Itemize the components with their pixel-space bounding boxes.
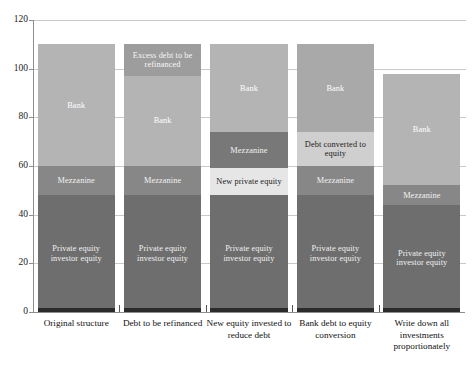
x-axis-tick-mark: [206, 305, 207, 312]
bar-segment-label: Mezzanine: [228, 146, 269, 155]
bar-segment-label: Private equity investor equity: [297, 244, 374, 263]
bar-5[interactable]: Private equity investor equityMezzanineB…: [383, 74, 460, 312]
x-axis-tick-mark: [379, 305, 380, 312]
bar-segment[interactable]: Debt converted to equity: [297, 132, 374, 166]
bar-base-band: [124, 308, 201, 312]
y-axis-tick-mark: [29, 263, 33, 264]
bar-segment[interactable]: Excess debt to be refinanced: [124, 44, 201, 76]
y-axis-tick-label: 80: [0, 111, 28, 121]
bar-segment[interactable]: Mezzanine: [38, 166, 115, 195]
bar-2[interactable]: Private equity investor equityMezzanineB…: [124, 44, 201, 312]
stacked-bar-chart: 020406080100120Private equity investor e…: [0, 0, 472, 367]
bar-segment[interactable]: Mezzanine: [210, 132, 287, 169]
bar-segment[interactable]: Private equity investor equity: [124, 195, 201, 312]
bar-3[interactable]: Private equity investor equityNew privat…: [210, 44, 287, 312]
bar-segment-label: Bank: [411, 125, 433, 134]
y-axis-tick-label: 40: [0, 209, 28, 219]
bar-base-band: [210, 308, 287, 312]
y-axis-tick-mark: [29, 215, 33, 216]
bar-segment-label: Private equity investor equity: [38, 244, 115, 263]
bar-segment-label: Bank: [152, 116, 174, 125]
bar-segment[interactable]: Private equity investor equity: [383, 205, 460, 312]
gridline-120: [34, 20, 466, 21]
y-axis-tick-label: 60: [0, 160, 28, 170]
y-axis-tick-mark: [29, 117, 33, 118]
bar-segment-label: Mezzanine: [142, 176, 183, 185]
bar-segment-label: Bank: [324, 84, 346, 93]
bar-segment-label: Private equity investor equity: [124, 244, 201, 263]
bar-segment-label: Excess debt to be refinanced: [124, 51, 201, 70]
bar-segment-label: New private equity: [214, 177, 283, 186]
x-axis-category-label: Original structure: [33, 318, 119, 330]
y-axis-tick-label: 20: [0, 257, 28, 267]
bar-segment-label: Bank: [238, 84, 260, 93]
bar-segment[interactable]: Private equity investor equity: [38, 195, 115, 312]
x-axis-tick-mark: [119, 305, 120, 312]
bar-segment-label: Mezzanine: [315, 176, 356, 185]
bar-segment-label: Private equity investor equity: [210, 244, 287, 263]
bar-segment-label: Mezzanine: [56, 176, 97, 185]
x-axis-category-label: Debt to be refinanced: [119, 318, 205, 330]
bar-segment-label: Debt converted to equity: [297, 140, 374, 159]
bar-segment[interactable]: Bank: [210, 44, 287, 132]
y-axis-tick-label: 100: [0, 63, 28, 73]
bar-segment[interactable]: Mezzanine: [124, 166, 201, 195]
x-axis-tick-mark: [292, 305, 293, 312]
y-axis-tick-label: 0: [0, 306, 28, 316]
bar-base-band: [383, 308, 460, 312]
bar-segment[interactable]: Bank: [383, 74, 460, 186]
bar-segment[interactable]: Private equity investor equity: [210, 195, 287, 312]
bar-segment[interactable]: Bank: [124, 76, 201, 166]
x-axis-category-label: New equity invested to reduce debt: [206, 318, 292, 341]
bar-segment[interactable]: Mezzanine: [297, 166, 374, 195]
bar-segment-label: Mezzanine: [401, 191, 442, 200]
bar-base-band: [38, 308, 115, 312]
y-axis-tick-mark: [29, 312, 33, 313]
bar-segment[interactable]: Private equity investor equity: [297, 195, 374, 312]
y-axis-tick-mark: [29, 20, 33, 21]
bar-segment-label: Private equity investor equity: [383, 249, 460, 268]
y-axis-tick-label: 120: [0, 14, 28, 24]
bar-4[interactable]: Private equity investor equityMezzanineD…: [297, 44, 374, 312]
y-axis-tick-mark: [29, 166, 33, 167]
bar-base-band: [297, 308, 374, 312]
bar-segment[interactable]: Mezzanine: [383, 185, 460, 204]
bar-1[interactable]: Private equity investor equityMezzanineB…: [38, 44, 115, 312]
bar-segment-label: Bank: [65, 101, 87, 110]
y-axis-tick-mark: [29, 69, 33, 70]
x-axis-category-label: Write down all investments proportionate…: [379, 318, 465, 353]
x-axis-category-label: Bank debt to equity conversion: [292, 318, 378, 341]
bar-segment[interactable]: New private equity: [210, 168, 287, 195]
bar-segment[interactable]: Bank: [297, 44, 374, 132]
bar-segment[interactable]: Bank: [38, 44, 115, 166]
